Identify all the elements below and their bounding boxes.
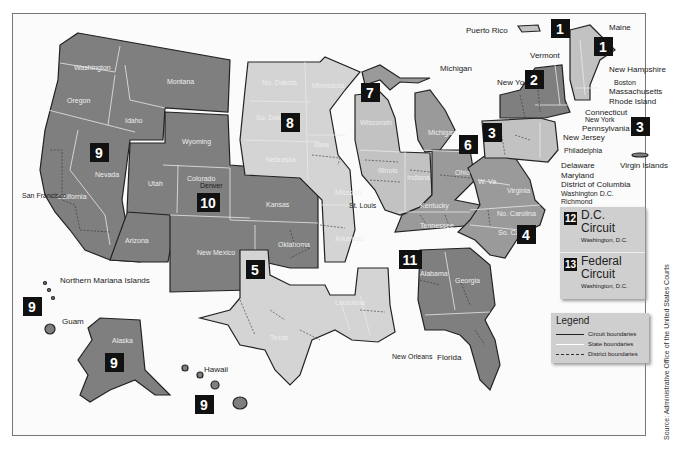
- circuit-badge-1[interactable]: 1: [594, 37, 613, 56]
- circuit-badge-12: 12: [564, 212, 577, 225]
- legend-title: Legend: [556, 315, 589, 326]
- legend-item-district: District boundaries: [556, 351, 638, 357]
- state-label-no-carolina: No. Carolina: [497, 210, 536, 217]
- svg-text:9: 9: [110, 355, 118, 371]
- city-label-philadelphia: Philadelphia: [564, 147, 602, 155]
- state-label-iowa: Iowa: [314, 141, 329, 148]
- label-pennsylvania: Pennsylvania: [582, 124, 630, 133]
- circuit-badge-13: 13: [564, 258, 577, 271]
- state-label-minnesota: Minnesota: [312, 82, 344, 89]
- svg-text:5: 5: [251, 262, 259, 278]
- label-michigan-up: Michigan: [440, 64, 472, 73]
- state-label-alaska: Alaska: [112, 337, 133, 344]
- circuit-badge-11[interactable]: 11: [399, 250, 422, 269]
- circuit-badge-10[interactable]: 10: [197, 193, 220, 212]
- state-label-wyoming: Wyoming: [182, 138, 211, 146]
- circuit-badge-9-alaska[interactable]: 9: [105, 353, 124, 372]
- label-northern-mariana: Northern Mariana Islands: [60, 276, 150, 285]
- state-label-louisiana: Louisiana: [335, 299, 365, 306]
- state-label-montana: Montana: [167, 78, 194, 85]
- state-label-nevada: Nevada: [95, 171, 119, 178]
- city-label-washington-dc: Washington D.C.: [561, 190, 614, 198]
- state-label-georgia: Georgia: [455, 277, 480, 285]
- svg-text:11: 11: [403, 252, 418, 268]
- circuit-12-entry[interactable]: 12 D.C. Circuit Washington, D.C.: [560, 207, 645, 252]
- state-label-oklahoma: Oklahoma: [278, 241, 310, 248]
- circuit-badge-3[interactable]: 3: [483, 123, 502, 142]
- legend-item-circuit: Circuit boundaries: [556, 331, 636, 337]
- circuit-badge-5[interactable]: 5: [246, 260, 265, 279]
- city-label-richmond: Richmond: [561, 198, 593, 205]
- circuit-badge-9[interactable]: 9: [90, 143, 109, 162]
- label-massachusetts: Massachusetts: [609, 87, 662, 96]
- legend-item-state: State boundaries: [556, 341, 633, 347]
- legend: Legend Circuit boundaries State boundari…: [551, 313, 649, 363]
- circuit-badge-6[interactable]: 6: [459, 135, 478, 154]
- city-label-san-francisco: San Francisco: [22, 192, 67, 199]
- circuit-badge-3-virgin-islands[interactable]: 3: [631, 117, 650, 136]
- circuit-12-seat: Washington, D.C.: [581, 237, 628, 243]
- state-label-arizona: Arizona: [125, 237, 149, 244]
- circuit-badge-9-hawaii[interactable]: 9: [195, 395, 214, 414]
- svg-text:1: 1: [556, 21, 564, 37]
- svg-text:10: 10: [200, 195, 216, 211]
- circuit-badge-7[interactable]: 7: [361, 83, 380, 102]
- state-line-icon: [556, 344, 584, 345]
- circuit-13-entry[interactable]: 13 Federal Circuit Washington, D.C.: [560, 252, 645, 297]
- state-label-washington: Washington: [74, 64, 111, 72]
- state-label-indiana: Indiana: [407, 174, 430, 181]
- state-label-nebraska: Nebraska: [266, 156, 296, 163]
- svg-text:9: 9: [200, 397, 208, 413]
- city-label-new-orleans: New Orleans: [392, 353, 433, 360]
- guam-region[interactable]: [45, 324, 55, 334]
- state-label-virginia: Virginia: [507, 187, 530, 195]
- state-label-colorado: Colorado: [187, 175, 216, 182]
- label-vermont: Vermont: [530, 51, 561, 60]
- state-label-kentucky: Kentucky: [420, 202, 449, 210]
- district-line-icon: [556, 354, 584, 355]
- circuit-badge-2[interactable]: 2: [525, 70, 544, 89]
- label-district-of-columbia: District of Columbia: [561, 180, 631, 189]
- mariana-islands-region[interactable]: [44, 282, 55, 300]
- circuit-13-name: Federal Circuit: [581, 255, 641, 281]
- circuit-line-icon: [556, 334, 584, 335]
- svg-text:3: 3: [488, 125, 496, 141]
- state-label-michigan: Michigan: [428, 129, 456, 137]
- state-label-ohio: Ohio: [455, 169, 470, 176]
- city-label-new-york: New York: [585, 116, 615, 123]
- state-label-kansas: Kansas: [266, 201, 290, 208]
- state-label-oregon: Oregon: [67, 97, 90, 105]
- svg-text:7: 7: [366, 85, 374, 101]
- state-label-no-dakota: No. Dakota: [262, 79, 297, 86]
- circuit-badge-4[interactable]: 4: [517, 225, 536, 244]
- virgin-islands-region[interactable]: [632, 153, 648, 157]
- label-virgin-islands: Virgin Islands: [620, 161, 668, 170]
- state-label-arkansas: Arkansas: [335, 235, 365, 242]
- circuit-13-seat: Washington, D.C.: [581, 283, 628, 289]
- city-label-boston: Boston: [614, 79, 636, 86]
- circuit-12-name: D.C. Circuit: [581, 209, 641, 235]
- label-rhode-island: Rhode Island: [609, 97, 656, 106]
- label-maine: Maine: [609, 23, 631, 32]
- state-label-wisconsin: Wisconsin: [360, 119, 392, 126]
- state-label-idaho: Idaho: [125, 117, 143, 124]
- label-new-hampshire: New Hampshire: [609, 65, 666, 74]
- circuit-badge-8[interactable]: 8: [281, 113, 300, 132]
- circuit-badge-9-mariana[interactable]: 9: [23, 297, 42, 316]
- state-label-tennessee: Tennessee: [420, 222, 454, 229]
- state-label-illinois: Illinois: [378, 167, 398, 174]
- state-label-texas: Texas: [270, 334, 289, 341]
- svg-text:8: 8: [286, 115, 294, 131]
- svg-text:9: 9: [28, 299, 36, 315]
- dc-circuits-panel: 12 D.C. Circuit Washington, D.C. 13 Fede…: [560, 207, 645, 299]
- circuit-badge-1-puerto-rico[interactable]: 1: [551, 19, 570, 38]
- svg-text:3: 3: [636, 119, 644, 135]
- state-label-w-va: W. Va.: [478, 178, 498, 185]
- label-hawaii: Hawaii: [204, 365, 228, 374]
- label-florida: Florida: [437, 353, 462, 362]
- label-maryland: Maryland: [561, 171, 594, 180]
- state-label-new-mexico: New Mexico: [197, 249, 235, 256]
- city-label-denver: Denver: [200, 182, 223, 189]
- state-label-utah: Utah: [148, 180, 163, 187]
- svg-text:1: 1: [599, 39, 607, 55]
